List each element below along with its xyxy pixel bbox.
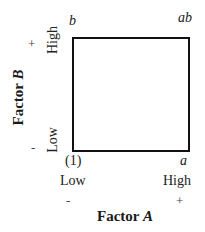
y-axis-title: Factor B — [11, 66, 26, 130]
x-axis-low-sign: - — [66, 194, 70, 207]
x-axis-high-sign: + — [176, 194, 183, 207]
corner-label-1: (1) — [65, 154, 81, 168]
y-axis-title-prefix: Factor — [10, 80, 26, 126]
x-axis-title-prefix: Factor — [97, 208, 143, 224]
x-axis-high-label: High — [163, 174, 191, 188]
y-axis-title-var: B — [10, 70, 26, 80]
y-axis-low-label: Low — [46, 125, 60, 155]
x-axis-low-label: Low — [60, 174, 86, 188]
design-square — [72, 37, 190, 152]
corner-label-a: a — [180, 154, 187, 168]
x-axis-title-var: A — [143, 208, 153, 224]
y-axis-low-sign: - — [31, 141, 35, 154]
corner-label-b: b — [69, 14, 76, 28]
y-axis-high-label: High — [46, 25, 60, 55]
x-axis-title: Factor A — [97, 209, 153, 224]
corner-label-ab: ab — [178, 11, 192, 25]
y-axis-high-sign: + — [28, 37, 35, 50]
